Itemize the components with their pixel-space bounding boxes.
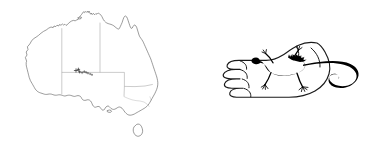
hand-lizard-svg: Line drawing of a human hand, palm down,… — [193, 0, 387, 147]
australia-mainland-coastline — [25, 11, 157, 115]
kangaroo-island-coastline — [108, 110, 112, 112]
australia-distribution-map-panel: Outline map of Australia with internal s… — [0, 0, 193, 147]
hand-scale-reference-panel: Line drawing of a human hand, palm down,… — [193, 0, 387, 147]
australia-map-svg: Outline map of Australia with internal s… — [0, 0, 193, 147]
figure-root: Distribution map of Australia with scale… — [0, 0, 387, 147]
tiwi-islands-coastline — [78, 17, 82, 19]
tasmania-coastline — [133, 124, 142, 136]
lizard-front-right-foot — [262, 50, 266, 54]
